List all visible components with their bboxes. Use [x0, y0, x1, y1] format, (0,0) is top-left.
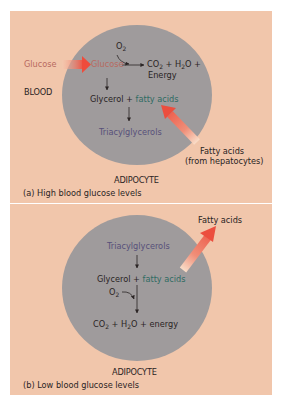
oxygen-label-b: O2 [109, 287, 119, 298]
released-fatty-acids-label: Fatty acids [198, 215, 242, 225]
hepatocyte-source-label: (from hepatocytes) [185, 156, 264, 166]
external-fatty-acids-label: Fatty acids [200, 146, 244, 156]
caption-b: (b) Low blood glucose levels [23, 380, 139, 390]
oxygen-label-a: O2 [116, 41, 126, 52]
glucose-cell-label: Glucose [91, 59, 124, 69]
oxidation-products-a: CO2 + H2O + [147, 59, 201, 70]
glucose-blood-label: Glucose [24, 59, 57, 69]
triacylglycerols-b: Triacylglycerols [107, 241, 170, 251]
blood-label: BLOOD [24, 87, 52, 97]
figure: Glucose BLOOD Glucose O2 CO2 + H2O + Ene… [0, 0, 284, 415]
glycerol-fatty-acids-a: Glycerol + fatty acids [90, 94, 179, 104]
oxidation-products-b: CO2 + H2O + energy [93, 319, 178, 330]
adipocyte-label-b: ADIPOCYTE [112, 367, 157, 377]
triacylglycerols-a: Triacylglycerols [99, 127, 162, 137]
caption-a: (a) High blood glucose levels [23, 188, 142, 198]
energy-label-a: Energy [148, 70, 177, 80]
adipocyte-label-a: ADIPOCYTE [114, 175, 159, 185]
glycerol-fatty-acids-b: Glycerol + fatty acids [97, 274, 186, 284]
